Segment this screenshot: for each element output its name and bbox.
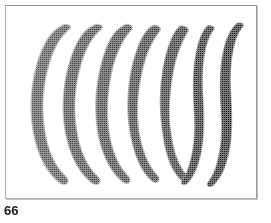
plate-inner	[6, 6, 256, 198]
plate-frame	[5, 5, 257, 199]
figure-page: 66	[0, 0, 271, 223]
figure-caption: 66	[4, 203, 18, 218]
specimen-diagram	[6, 6, 256, 198]
halftone-screen	[6, 6, 256, 198]
